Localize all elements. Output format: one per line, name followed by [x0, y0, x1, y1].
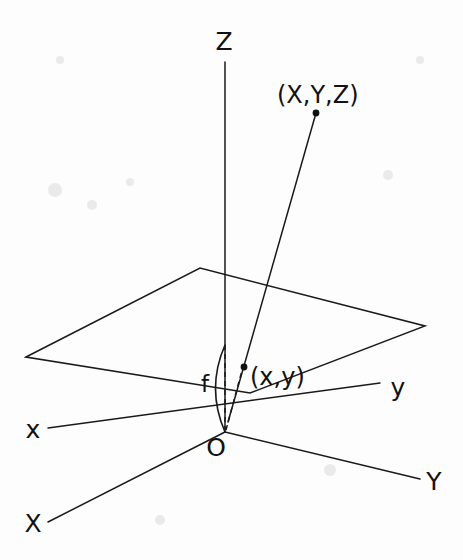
axis-xy-lower-line [48, 383, 380, 428]
axis-label-x-upper: X [24, 509, 41, 538]
axis-y-upper-line [225, 432, 420, 479]
diagram-canvas: Z (X,Y,Z) (x,y) f O x y X Y [0, 0, 463, 560]
axis-x-upper-line [48, 432, 225, 522]
projection-diagram-svg: Z (X,Y,Z) (x,y) f O x y X Y [0, 0, 463, 560]
focal-length-label: f [201, 371, 210, 397]
axis-label-y-lower: y [391, 373, 406, 402]
world-point-label: (X,Y,Z) [277, 81, 359, 109]
axis-label-y-upper: Y [425, 467, 442, 496]
image-point-dot [241, 364, 248, 371]
paper-texture [48, 56, 424, 525]
image-point-label: (x,y) [250, 363, 305, 391]
axis-label-z: Z [215, 27, 232, 56]
axis-label-x-lower: x [26, 415, 41, 444]
origin-label: O [206, 433, 226, 462]
world-point-dot [313, 110, 320, 117]
